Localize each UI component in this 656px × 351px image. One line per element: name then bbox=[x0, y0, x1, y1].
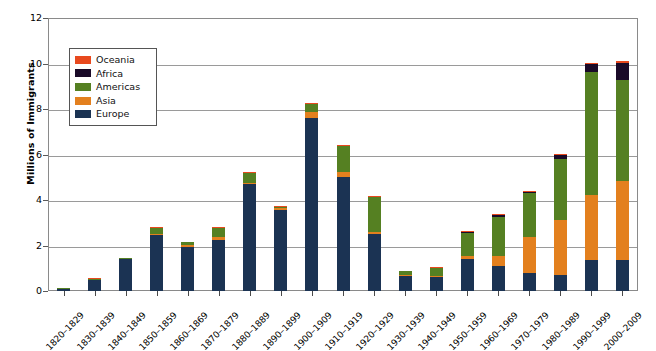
x-axis-tick-mark bbox=[560, 291, 561, 296]
x-axis-tick-mark bbox=[95, 291, 96, 296]
bar-segment-europe bbox=[88, 280, 101, 291]
x-axis-tick-mark bbox=[157, 291, 158, 296]
bar-group[interactable] bbox=[212, 227, 225, 291]
bar-segment-europe bbox=[616, 260, 629, 291]
legend-label: Asia bbox=[96, 96, 116, 106]
legend-item-europe[interactable]: Europe bbox=[75, 107, 151, 121]
bar-group[interactable] bbox=[616, 61, 629, 291]
bar-segment-americas bbox=[523, 193, 536, 236]
bar-segment-africa bbox=[585, 64, 598, 72]
bar-group[interactable] bbox=[305, 103, 318, 291]
bar-segment-americas bbox=[243, 173, 256, 183]
bar-segment-asia bbox=[616, 181, 629, 261]
x-axis-tick-mark bbox=[467, 291, 468, 296]
bar-segment-europe bbox=[274, 210, 287, 291]
bar-group[interactable] bbox=[399, 271, 412, 291]
y-axis-tick-label: 8 bbox=[12, 104, 42, 114]
bar-segment-americas bbox=[337, 146, 350, 172]
bar-group[interactable] bbox=[274, 206, 287, 291]
bar-segment-europe bbox=[119, 259, 132, 291]
legend-item-asia[interactable]: Asia bbox=[75, 94, 151, 108]
bar-group[interactable] bbox=[492, 214, 505, 291]
x-axis-tick-mark bbox=[126, 291, 127, 296]
x-axis-tick-mark bbox=[436, 291, 437, 296]
legend-label: Oceania bbox=[96, 55, 135, 65]
x-axis-tick-mark bbox=[374, 291, 375, 296]
bar-group[interactable] bbox=[585, 63, 598, 291]
immigration-stacked-bar-chart: Millions of Immigrants 024681012 1820–18… bbox=[0, 0, 656, 351]
chart-legend[interactable]: OceaniaAfricaAmericasAsiaEurope bbox=[69, 48, 157, 126]
bar-segment-americas bbox=[616, 80, 629, 181]
x-axis-tick-mark bbox=[312, 291, 313, 296]
bar-segment-americas bbox=[492, 217, 505, 256]
bar-segment-americas bbox=[585, 72, 598, 195]
x-axis-tick-mark bbox=[250, 291, 251, 296]
bar-segment-europe bbox=[368, 234, 381, 291]
bar-group[interactable] bbox=[337, 145, 350, 291]
bar-group[interactable] bbox=[523, 191, 536, 291]
x-axis-tick-mark bbox=[622, 291, 623, 296]
x-axis-tick-mark bbox=[219, 291, 220, 296]
x-axis-tick-mark bbox=[64, 291, 65, 296]
bar-segment-europe bbox=[554, 275, 567, 291]
x-axis-tick-mark bbox=[498, 291, 499, 296]
bar-segment-americas bbox=[368, 197, 381, 232]
legend-label: Americas bbox=[96, 82, 140, 92]
legend-swatch-americas bbox=[75, 83, 91, 91]
y-axis-tick-label: 12 bbox=[12, 13, 42, 23]
bar-segment-europe bbox=[430, 277, 443, 291]
legend-item-oceania[interactable]: Oceania bbox=[75, 53, 151, 67]
legend-item-africa[interactable]: Africa bbox=[75, 67, 151, 81]
x-axis-tick-mark bbox=[281, 291, 282, 296]
bar-segment-asia bbox=[554, 220, 567, 275]
bar-segment-americas bbox=[461, 233, 474, 256]
bar-group[interactable] bbox=[181, 242, 194, 291]
bar-group[interactable] bbox=[430, 267, 443, 291]
x-axis-tick-mark bbox=[405, 291, 406, 296]
bar-segment-europe bbox=[305, 118, 318, 291]
y-axis-tick-label: 2 bbox=[12, 241, 42, 251]
y-axis-tick-label: 10 bbox=[12, 59, 42, 69]
bar-segment-europe bbox=[181, 247, 194, 291]
legend-label: Europe bbox=[96, 109, 129, 119]
bar-segment-europe bbox=[337, 177, 350, 291]
x-axis-tick-mark bbox=[343, 291, 344, 296]
bar-group[interactable] bbox=[243, 172, 256, 291]
bar-segment-europe bbox=[212, 240, 225, 291]
x-axis-tick-mark bbox=[188, 291, 189, 296]
bar-group[interactable] bbox=[150, 227, 163, 291]
bar-group[interactable] bbox=[88, 278, 101, 291]
y-axis-tick-mark bbox=[43, 291, 48, 292]
bar-segment-africa bbox=[616, 63, 629, 80]
bar-segment-europe bbox=[399, 276, 412, 291]
y-axis-tick-label: 4 bbox=[12, 195, 42, 205]
bar-segment-europe bbox=[461, 259, 474, 291]
bar-segment-americas bbox=[305, 104, 318, 113]
bar-segment-europe bbox=[150, 235, 163, 291]
bar-segment-europe bbox=[243, 184, 256, 291]
legend-label: Africa bbox=[96, 69, 123, 79]
bar-group[interactable] bbox=[119, 258, 132, 291]
legend-item-americas[interactable]: Americas bbox=[75, 80, 151, 94]
bar-group[interactable] bbox=[461, 231, 474, 291]
x-axis-tick-mark bbox=[591, 291, 592, 296]
bar-segment-americas bbox=[212, 228, 225, 237]
bar-segment-americas bbox=[430, 268, 443, 276]
bar-segment-asia bbox=[523, 237, 536, 273]
x-axis-tick-mark bbox=[529, 291, 530, 296]
bar-group[interactable] bbox=[368, 196, 381, 291]
legend-swatch-africa bbox=[75, 69, 91, 77]
bar-segment-europe bbox=[492, 266, 505, 291]
legend-swatch-europe bbox=[75, 110, 91, 118]
y-axis-tick-label: 6 bbox=[12, 150, 42, 160]
bar-segment-asia bbox=[492, 256, 505, 266]
legend-swatch-asia bbox=[75, 97, 91, 105]
y-axis-tick-label: 0 bbox=[12, 286, 42, 296]
bar-segment-asia bbox=[585, 195, 598, 260]
bar-group[interactable] bbox=[554, 154, 567, 291]
bar-segment-europe bbox=[585, 260, 598, 291]
bar-segment-americas bbox=[554, 159, 567, 220]
bar-segment-europe bbox=[523, 273, 536, 291]
legend-swatch-oceania bbox=[75, 56, 91, 64]
